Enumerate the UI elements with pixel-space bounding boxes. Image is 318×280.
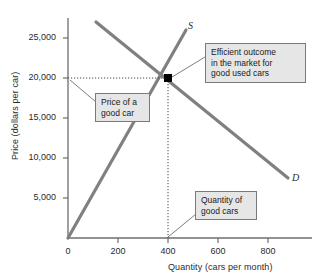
callout-quantity-of-good-cars: Quantity of good cars xyxy=(195,191,257,220)
y-tick-label-15000: 15,000 xyxy=(12,112,56,122)
y-tick-label-10000: 10,000 xyxy=(12,152,56,162)
x-tick-label-600: 600 xyxy=(198,246,238,256)
equilibrium-marker xyxy=(164,74,172,82)
y-tick-label-20000: 20,000 xyxy=(12,72,56,82)
y-tick-label-5000: 5,000 xyxy=(12,192,56,202)
y-tick-label-25000: 25,000 xyxy=(12,32,56,42)
demand-curve-label: D xyxy=(292,172,299,183)
x-tick-label-0: 0 xyxy=(48,246,88,256)
supply-curve xyxy=(68,30,186,238)
leader-line-price-of-good-car xyxy=(70,80,96,102)
supply-curve-label: S xyxy=(188,20,193,31)
callout-price-of-good-car: Price of a good car xyxy=(95,93,150,122)
x-tick-label-400: 400 xyxy=(148,246,188,256)
economics-supply-demand-chart: Price (dollars per car) Quantity (cars p… xyxy=(0,0,318,280)
x-tick-label-800: 800 xyxy=(248,246,288,256)
leader-line-quantity-of-good-cars xyxy=(168,214,196,237)
x-tick-label-200: 200 xyxy=(98,246,138,256)
chart-plot-area xyxy=(0,0,318,280)
x-axis-title: Quantity (cars per month) xyxy=(168,262,273,272)
callout-efficient-outcome: Efficient outcome in the market for good… xyxy=(205,43,306,83)
leader-line-efficient-outcome xyxy=(172,57,205,77)
